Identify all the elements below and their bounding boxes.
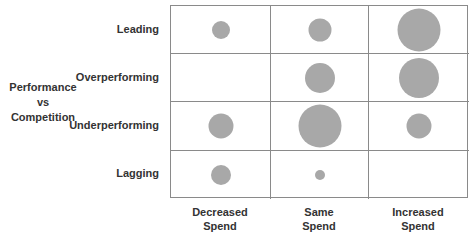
y-axis-title-line: Performance (2, 80, 84, 95)
grid-cell (171, 54, 271, 102)
row-label-lagging: Lagging (116, 167, 159, 179)
row-label-overperforming: Overperforming (76, 71, 159, 83)
column-label-same-spend: Same Spend (269, 205, 369, 233)
bubble (399, 58, 439, 98)
grid-cell (271, 6, 369, 54)
grid-cell (171, 6, 271, 54)
grid-cell (171, 102, 271, 151)
grid-cell (369, 6, 469, 54)
bubble (407, 114, 432, 139)
y-axis-title-line: vs (2, 95, 84, 110)
grid-cell (271, 102, 369, 151)
row-label-leading: Leading (117, 23, 159, 35)
row-label-underperforming: Underperforming (69, 119, 159, 131)
grid-cell (171, 151, 271, 199)
bubble (211, 165, 231, 185)
bubble (298, 105, 341, 148)
grid-cell (271, 54, 369, 102)
column-label-line: Decreased (170, 205, 270, 219)
column-label-line: Spend (170, 219, 270, 233)
column-label-line: Same (269, 205, 369, 219)
bubble (208, 114, 233, 139)
bubble (308, 18, 331, 41)
bubble (315, 170, 325, 180)
grid-cell (271, 151, 369, 199)
column-label-line: Spend (368, 219, 468, 233)
column-label-increased-spend: Increased Spend (368, 205, 468, 233)
bubble-grid (170, 5, 468, 198)
grid-cell (369, 54, 469, 102)
column-label-line: Increased (368, 205, 468, 219)
column-label-line: Spend (269, 219, 369, 233)
bubble (305, 63, 335, 93)
grid-cell (369, 102, 469, 151)
column-label-decreased-spend: Decreased Spend (170, 205, 270, 233)
grid-cell (369, 151, 469, 199)
bubble (398, 8, 441, 51)
bubble (212, 21, 230, 39)
